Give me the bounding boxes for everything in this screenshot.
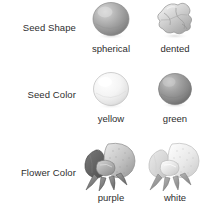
caption-yellow: yellow bbox=[78, 113, 144, 125]
variant-yellow: yellow bbox=[78, 70, 144, 125]
green-seed-illustration bbox=[142, 70, 208, 112]
caption-green: green bbox=[142, 113, 208, 125]
purple-flower-illustration bbox=[78, 140, 144, 190]
variant-dented: dented bbox=[142, 0, 208, 55]
caption-purple: purple bbox=[78, 192, 144, 204]
yellow-seed-illustration bbox=[78, 70, 144, 112]
variant-spherical: spherical bbox=[78, 0, 144, 55]
trait-row-flower-color: Flower Color bbox=[0, 140, 217, 221]
trait-diagram: Seed Shape bbox=[0, 0, 217, 221]
variant-green: green bbox=[142, 70, 208, 125]
variant-purple: purple bbox=[78, 140, 144, 204]
caption-dented: dented bbox=[142, 43, 208, 55]
row-label-seed-color: Seed Color bbox=[0, 89, 76, 100]
row-label-flower-color: Flower Color bbox=[0, 167, 76, 178]
dented-seed-illustration bbox=[142, 0, 208, 42]
trait-row-seed-color: Seed Color bbox=[0, 70, 217, 141]
trait-row-seed-shape: Seed Shape bbox=[0, 0, 217, 71]
row-label-seed-shape: Seed Shape bbox=[0, 22, 76, 33]
variant-white: white bbox=[142, 140, 208, 204]
caption-spherical: spherical bbox=[78, 43, 144, 55]
spherical-seed-illustration bbox=[78, 0, 144, 42]
caption-white: white bbox=[142, 192, 208, 204]
white-flower-illustration bbox=[142, 140, 208, 190]
